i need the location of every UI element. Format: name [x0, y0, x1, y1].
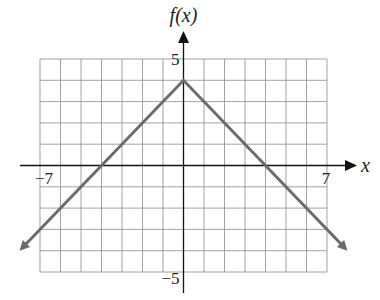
y-tick-label-max: 5 [171, 50, 180, 69]
y-axis-label: f(x) [170, 4, 198, 27]
y-tick-label-min: −5 [161, 269, 179, 288]
y-axis-arrow [178, 31, 189, 43]
x-tick-label-max: 7 [322, 169, 331, 188]
x-axis-label: x [360, 154, 370, 176]
x-axis-arrow [345, 160, 357, 171]
chart: f(x) x −7 7 5 −5 [0, 0, 380, 300]
x-tick-label-min: −7 [35, 169, 54, 188]
